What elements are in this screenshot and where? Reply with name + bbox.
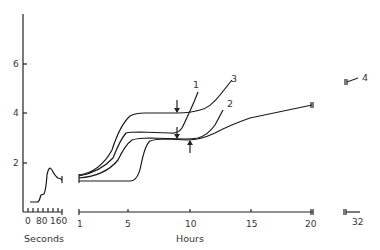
hours-tick-label-15: 15 — [246, 219, 257, 229]
curve-3 — [79, 80, 232, 175]
hours-tick-label-10: 10 — [185, 219, 197, 229]
chart: 6 4 2 0 80 160 Seconds 1 5 10 15 20 Hour… — [0, 0, 380, 250]
y-tick-label-2: 2 — [13, 158, 19, 168]
seconds-tick-80: 80 — [36, 216, 48, 226]
hours-tick-label-32: 32 — [352, 217, 363, 227]
seconds-curve — [30, 168, 62, 202]
y-tick-label-6: 6 — [13, 59, 19, 69]
seconds-tick-160: 160 — [50, 216, 67, 226]
hours-axis-label: Hours — [176, 233, 204, 244]
curve-label-2: 2 — [227, 98, 233, 109]
seconds-tick-0: 0 — [25, 216, 31, 226]
hours-tick-label-1: 1 — [77, 219, 83, 229]
curve-label-3: 3 — [231, 73, 237, 84]
seconds-axis-label: Seconds — [24, 233, 64, 244]
curve-1 — [79, 92, 198, 176]
curve-label-4: 4 — [362, 72, 368, 83]
arrow-down-1 — [174, 100, 180, 113]
curve-label-1: 1 — [193, 79, 199, 90]
arrow-up-3 — [187, 140, 193, 153]
y-tick-label-4: 4 — [13, 108, 19, 118]
point-4-line — [347, 78, 358, 82]
hours-tick-label-5: 5 — [125, 219, 131, 229]
hours-tick-label-20: 20 — [305, 219, 317, 229]
